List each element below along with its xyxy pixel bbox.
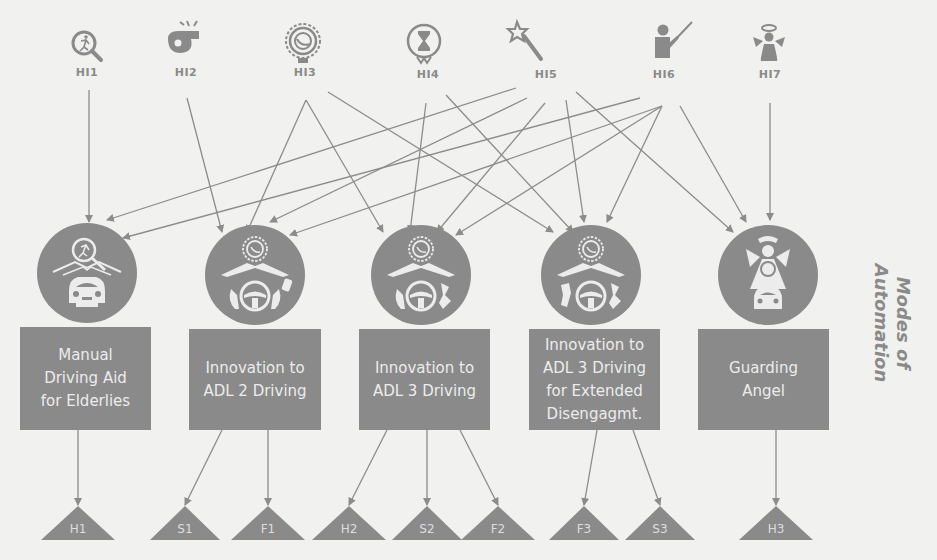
input-edges xyxy=(89,88,770,238)
pedestrian-search-car-icon xyxy=(37,223,137,323)
side-title-line1: Modes of xyxy=(892,264,914,383)
angel-car-icon xyxy=(718,225,818,325)
mode-circles xyxy=(37,223,818,325)
badge-road-steering-free-hands-icon xyxy=(541,225,641,325)
magic-wand-icon xyxy=(508,22,541,59)
mode-box-adl3: Innovation to ADL 3 Driving xyxy=(359,329,490,430)
hourglass-badge-icon xyxy=(408,25,440,63)
mode-box-line: for Elderlies xyxy=(41,390,130,413)
search-pedestrian-icon xyxy=(73,32,101,60)
edge-hi5-m5 xyxy=(576,92,733,232)
edge-hi6-m2 xyxy=(290,106,662,235)
mode-box-guarding-angel: Guarding Angel xyxy=(698,329,829,430)
hi-label-2: HI2 xyxy=(161,66,211,79)
side-title-line2: Automation xyxy=(870,264,892,383)
outcome-label-s1: S1 xyxy=(165,522,205,536)
automation-modes-diagram: HI1 HI2 HI3 HI4 HI5 HI6 HI7 Manual Drivi… xyxy=(0,0,937,560)
hi-label-4: HI4 xyxy=(403,68,453,81)
outcome-label-s3: S3 xyxy=(640,522,680,536)
edge-hi5-m2 xyxy=(270,98,527,222)
side-title: Modes of Automation xyxy=(862,248,922,398)
mode-box-line: Driving Aid xyxy=(41,367,130,390)
diagram-canvas xyxy=(0,0,937,560)
outcome-label-h2: H2 xyxy=(329,522,369,536)
edge-m3-h2 xyxy=(349,430,387,505)
edge-m4-f3 xyxy=(584,430,597,505)
mode-box-line: Disengagmt. xyxy=(543,403,646,426)
edge-hi4-m4 xyxy=(446,95,573,232)
hi-label-1: HI1 xyxy=(62,66,112,79)
badge-road-steering-hands-icon xyxy=(371,225,471,325)
mode-box-line: Manual xyxy=(41,344,130,367)
mode-box-line: ADL 3 Driving xyxy=(543,357,646,380)
mode-box-line: Guarding xyxy=(729,357,798,380)
outcome-label-f2: F2 xyxy=(478,522,518,536)
edge-m2-s1 xyxy=(185,430,222,505)
mode-box-adl3-extended: Innovation to ADL 3 Driving for Extended… xyxy=(529,329,660,430)
mode-box-line: Innovation to xyxy=(373,357,476,380)
teacher-pointer-icon xyxy=(655,22,692,58)
hi-label-6: HI6 xyxy=(639,68,689,81)
outcome-label-s2: S2 xyxy=(407,522,447,536)
outcome-label-h3: H3 xyxy=(756,522,796,536)
hi-label-5: HI5 xyxy=(521,68,571,81)
speedometer-badge-icon xyxy=(286,24,320,63)
angel-icon xyxy=(753,25,785,61)
mode-box-line: Innovation to xyxy=(543,334,646,357)
edge-hi6-m5 xyxy=(680,106,746,222)
mode-box-line: ADL 3 Driving xyxy=(373,380,476,403)
edge-m3-f2 xyxy=(460,430,498,505)
mode-box-adl2: Innovation to ADL 2 Driving xyxy=(189,329,321,430)
edge-hi2-m2 xyxy=(187,98,222,232)
edge-hi5-m1 xyxy=(107,88,516,220)
mode-box-line: for Extended xyxy=(543,380,646,403)
outcome-label-f1: F1 xyxy=(248,522,288,536)
outcome-edges xyxy=(78,430,776,505)
edge-hi3-m2 xyxy=(247,100,306,232)
edge-hi4-m3 xyxy=(410,103,426,232)
whistle-icon xyxy=(168,21,199,53)
hi-label-7: HI7 xyxy=(745,68,795,81)
mode-box-line: Angel xyxy=(729,380,798,403)
edge-m4-s3 xyxy=(633,430,660,505)
outcome-label-f3: F3 xyxy=(564,522,604,536)
mode-box-manual-driving-aid: Manual Driving Aid for Elderlies xyxy=(20,327,151,430)
hi-label-3: HI3 xyxy=(280,66,330,79)
mode-box-line: Innovation to xyxy=(203,357,306,380)
mode-box-line: ADL 2 Driving xyxy=(203,380,306,403)
outcome-label-h1: H1 xyxy=(58,522,98,536)
badge-road-steering-hands-icon xyxy=(205,225,305,325)
